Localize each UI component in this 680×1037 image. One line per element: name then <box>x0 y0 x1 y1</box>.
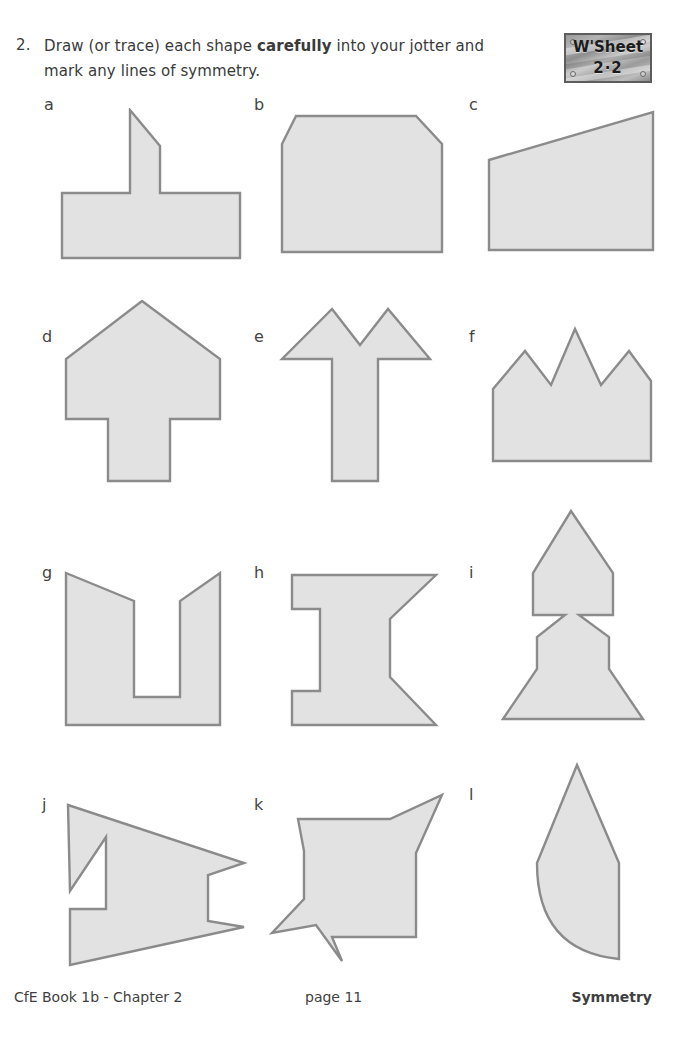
shape-label-j: j <box>42 795 46 814</box>
page-footer: CfE Book 1b - Chapter 2 page 11 Symmetry <box>0 985 680 1015</box>
shape-j-jagged-flag <box>58 799 248 969</box>
worksheet-page: 2. Draw (or trace) each shape carefully … <box>0 0 680 1037</box>
worksheet-badge: W'Sheet 2·2 <box>564 33 652 83</box>
question-number: 2. <box>16 36 31 54</box>
shape-cell-l: l <box>455 755 670 970</box>
shape-a-steeple-tee <box>50 108 250 263</box>
question-text-line2: mark any lines of symmetry. <box>44 62 260 80</box>
shape-cell-c: c <box>455 90 670 265</box>
shape-cell-b: b <box>240 90 460 265</box>
shape-cell-f: f <box>455 295 670 485</box>
question-text-part1: Draw (or trace) each shape <box>44 37 257 55</box>
shape-label-e: e <box>254 327 264 346</box>
footer-topic: Symmetry <box>571 989 652 1005</box>
shape-label-l: l <box>469 785 473 804</box>
shape-cell-i: i <box>455 495 670 735</box>
shape-label-f: f <box>469 327 475 346</box>
question-text-part2: into your jotter and <box>332 37 484 55</box>
shape-l-leaf <box>503 759 643 969</box>
shape-d-thick-up-arrow <box>58 297 228 485</box>
shape-g-tapered-u <box>58 567 228 732</box>
shape-label-k: k <box>254 795 263 814</box>
shape-label-c: c <box>469 95 478 114</box>
shape-cell-h: h <box>240 545 460 735</box>
question-text-emphasis: carefully <box>257 37 332 55</box>
shape-cell-d: d <box>0 295 230 485</box>
footer-page-number: page 11 <box>305 989 362 1005</box>
shape-k-spiked-square <box>264 791 454 966</box>
shape-cell-g: g <box>0 545 230 735</box>
shape-h-notched-i-beam <box>268 567 448 732</box>
shape-label-h: h <box>254 563 264 582</box>
shape-cell-a: a <box>0 90 230 265</box>
shape-e-double-peak-arrow <box>270 297 450 485</box>
shape-cell-j: j <box>0 785 245 970</box>
question-text: Draw (or trace) each shape carefully int… <box>44 34 544 84</box>
footer-book-reference: CfE Book 1b - Chapter 2 <box>14 989 182 1005</box>
shape-i-rocket <box>497 505 647 733</box>
shape-label-d: d <box>42 327 52 346</box>
worksheet-badge-code: 2·2 <box>566 59 650 77</box>
shape-f-three-peak-crown <box>483 323 658 468</box>
question-header: 2. Draw (or trace) each shape carefully … <box>0 0 680 95</box>
shape-c-right-trapezium <box>481 108 661 258</box>
worksheet-badge-title: W'Sheet <box>566 38 650 56</box>
shape-cell-k: k <box>240 785 460 970</box>
shape-b-chamfered-rectangle <box>264 112 454 257</box>
shape-cell-e: e <box>240 295 460 485</box>
shape-label-b: b <box>254 95 264 114</box>
shape-label-g: g <box>42 563 52 582</box>
shape-label-i: i <box>469 563 473 582</box>
